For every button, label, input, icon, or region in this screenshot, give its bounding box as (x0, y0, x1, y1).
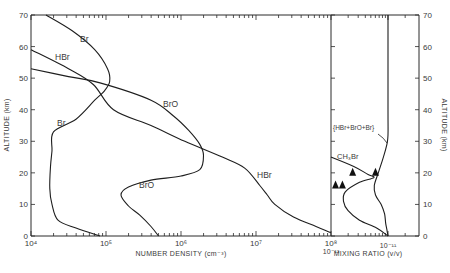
right-y-tick-label: 40 (423, 106, 432, 115)
left-x-tick-label: 10⁵ (100, 239, 112, 248)
right-y-tick-label: 0 (423, 232, 428, 241)
curve-br (46, 15, 110, 236)
right-y-tick-labels: 010203040506070 (423, 11, 432, 241)
curve-label-hbr-upper: HBr (55, 52, 70, 62)
left-y-axis-title: ALTITUDE (km) (3, 98, 11, 151)
right-x-tick-label: 10⁻¹¹ (380, 242, 397, 249)
right-y-tick-label: 20 (423, 169, 432, 178)
right-x-axis-title: MIXING RATIO (v/v) (334, 250, 403, 258)
right-y-tick-label: 70 (423, 11, 432, 20)
curve-hbr (31, 50, 331, 233)
right-y-tick-label: 30 (423, 137, 432, 146)
left-y-tick-label: 10 (19, 200, 28, 209)
curve-hbr-bro-br (374, 15, 388, 236)
left-y-tick-label: 30 (19, 137, 28, 146)
bromine-profile-figure: 10⁴10⁵10⁶10⁷10⁸ 010203040506070 NUMBER D… (0, 0, 450, 273)
left-x-ticks (31, 15, 328, 236)
left-y-ticks (31, 15, 35, 236)
curve-label-hbr-lower: HBr (257, 170, 272, 180)
left-y-tick-label: 20 (19, 169, 28, 178)
left-curves (31, 15, 331, 236)
observation-triangle-marker (349, 168, 356, 176)
right-y-axis-title: ALTITUDE (km) (440, 98, 448, 151)
left-x-tick-label: 10⁸ (325, 239, 337, 248)
observation-triangle-marker (332, 180, 339, 188)
right-y-tick-label: 10 (423, 200, 432, 209)
left-y-tick-labels: 010203040506070 (19, 11, 28, 241)
curve-label-ch3br: CH₃Br (337, 152, 359, 161)
left-x-axis-title: NUMBER DENSITY (cm⁻³) (135, 250, 226, 258)
right-panel: 10⁻¹²10⁻¹¹ 010203040506070 MIXING RATIO … (323, 11, 448, 258)
total-bromine-pointer-arrow (378, 134, 387, 143)
curve-label-br-upper: Br (80, 34, 89, 44)
observation-triangle-marker (339, 180, 346, 188)
left-y-tick-label: 70 (19, 11, 28, 20)
curve-label-bro-lower: BrO (139, 180, 155, 190)
left-y-tick-label: 50 (19, 74, 28, 83)
curve-bro (31, 69, 204, 236)
left-x-tick-label: 10⁷ (250, 239, 262, 248)
left-x-tick-labels: 10⁴10⁵10⁶10⁷10⁸ (25, 239, 337, 248)
right-y-tick-label: 60 (423, 43, 432, 52)
curve-label-bro-upper: BrO (163, 99, 179, 109)
curve-label-br-lower: Br (57, 118, 66, 128)
right-y-tick-label: 50 (423, 74, 432, 83)
left-y-tick-label: 60 (19, 43, 28, 52)
left-panel: 10⁴10⁵10⁶10⁷10⁸ 010203040506070 NUMBER D… (3, 11, 337, 258)
observation-triangle-marker (372, 168, 379, 176)
left-x-tick-label: 10⁶ (175, 239, 187, 248)
curve-label-total-bromine: {HBr+BrO+Br} (333, 124, 375, 132)
left-y-tick-label: 40 (19, 106, 28, 115)
left-y-tick-label: 0 (24, 232, 29, 241)
